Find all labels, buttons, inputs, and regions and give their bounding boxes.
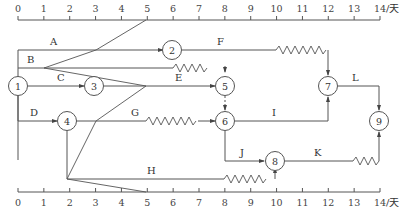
scale-label: 12 [322,197,334,208]
svg-text:E: E [175,72,182,83]
scale-label: 11 [296,3,308,14]
scale-label: 3 [93,3,99,14]
scale-label: 10 [271,197,283,208]
scale-label: 0 [15,197,21,208]
scale-label: 0 [15,3,21,14]
svg-text:I: I [272,107,276,118]
scale-label: 9 [248,3,254,14]
node-2: 2 [163,41,182,60]
bottom-time-scale: 01234567891011121314/天 [15,188,399,208]
node-9: 9 [370,112,389,131]
scale-label: 10 [271,3,283,14]
svg-text:C: C [57,72,65,83]
svg-text:6: 6 [222,116,228,127]
scale-label: 9 [248,197,254,208]
activity-D: D [18,96,57,121]
activity-I: I [235,97,328,121]
svg-text:H: H [147,165,156,176]
svg-text:7: 7 [325,81,331,92]
activity-C: C [28,72,84,86]
network-diagram: 01234567891011121314/天 01234567891011121… [0,0,412,219]
scale-label: 12 [322,3,334,14]
svg-text:B: B [27,54,34,65]
activity-J: J [225,131,264,161]
activity-F: F [182,36,328,75]
scale-label: 4 [118,197,124,208]
scale-label: 7 [196,3,202,14]
node-7: 7 [319,77,338,96]
svg-text:L: L [352,72,359,83]
scale-label: 13 [348,197,360,208]
activity-A: A [18,36,163,160]
scale-label: 6 [170,197,176,208]
scale-label: 3 [93,197,99,208]
scale-label: 11 [296,197,308,208]
svg-text:A: A [49,36,58,47]
scale-label: 4 [118,3,124,14]
scale-label: 13 [348,3,360,14]
svg-text:2: 2 [169,45,175,56]
scale-label: 14 [374,3,386,14]
scale-unit: /天 [386,3,399,14]
check-line [44,20,146,192]
scale-label: 1 [41,197,47,208]
scale-unit: /天 [386,197,399,208]
scale-label: 2 [67,197,73,208]
svg-text:8: 8 [272,156,278,167]
svg-text:9: 9 [376,116,382,127]
activity-L: L [338,72,379,110]
svg-text:4: 4 [64,116,70,127]
svg-text:1: 1 [15,81,21,92]
svg-text:G: G [131,107,139,118]
scale-label: 8 [222,197,228,208]
node-4: 4 [58,112,77,131]
node-3: 3 [85,77,104,96]
scale-label: 6 [170,3,176,14]
scale-label: 14 [374,197,386,208]
activity-G: G [76,107,215,125]
svg-text:5: 5 [222,81,228,92]
svg-text:F: F [217,36,224,47]
node-8: 8 [266,152,285,171]
activity-E: E [104,72,215,86]
node-5: 5 [216,77,235,96]
node-1: 1 [9,77,28,96]
activity-K: K [285,132,379,165]
svg-text:D: D [30,107,38,118]
node-6: 6 [216,112,235,131]
scale-label: 5 [144,3,150,14]
scale-label: 7 [196,197,202,208]
scale-label: 5 [144,197,150,208]
svg-text:K: K [314,147,322,158]
svg-text:3: 3 [91,81,97,92]
scale-label: 8 [222,3,228,14]
svg-text:J: J [239,147,244,158]
scale-label: 1 [41,3,47,14]
top-time-scale: 01234567891011121314/天 [15,3,399,20]
scale-label: 2 [67,3,73,14]
